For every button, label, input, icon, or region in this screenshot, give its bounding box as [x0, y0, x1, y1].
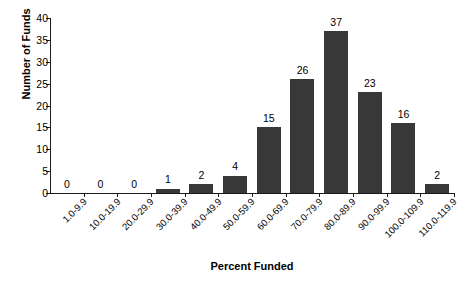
bar: [324, 31, 348, 193]
bar-series: 00012415263723162: [50, 18, 454, 193]
bar-group: 2: [420, 18, 454, 193]
bar-group: 23: [353, 18, 387, 193]
y-axis-tick-label: 0: [24, 188, 48, 199]
y-axis-tick-label: 10: [24, 144, 48, 155]
bar-group: 0: [117, 18, 151, 193]
bar-group: 2: [185, 18, 219, 193]
bar-value-label: 2: [199, 170, 205, 181]
y-axis-tick-label: 40: [24, 13, 48, 24]
bar-value-label: 0: [64, 179, 70, 190]
bar: [290, 79, 314, 193]
bar: [425, 184, 449, 193]
bar-value-label: 2: [434, 170, 440, 181]
y-axis-tick-label: 25: [24, 79, 48, 90]
y-axis-tick-label: 5: [24, 166, 48, 177]
x-axis-category-labels: 1.0-9.910.0-19.920.0-29.930.0-39.940.0-4…: [50, 196, 454, 254]
bar-chart: Number of Funds 00012415263723162 051015…: [0, 0, 469, 282]
y-axis-tick-label: 30: [24, 57, 48, 68]
y-axis-tick-label: 15: [24, 122, 48, 133]
bar-group: 16: [387, 18, 421, 193]
bar-value-label: 0: [98, 179, 104, 190]
bar-value-label: 26: [297, 65, 309, 76]
bar: [156, 189, 180, 193]
bar-group: 37: [319, 18, 353, 193]
bar-group: 0: [50, 18, 84, 193]
bar-group: 0: [84, 18, 118, 193]
bar-value-label: 1: [165, 174, 171, 185]
x-axis-title: Percent Funded: [50, 260, 454, 272]
bar-group: 26: [286, 18, 320, 193]
bar: [223, 176, 247, 194]
bar: [358, 92, 382, 193]
bar-value-label: 0: [131, 179, 137, 190]
bar-group: 1: [151, 18, 185, 193]
bar-value-label: 23: [364, 78, 376, 89]
plot-area: 00012415263723162 0510152025303540: [50, 18, 454, 193]
bar: [257, 127, 281, 193]
bar: [391, 123, 415, 193]
y-axis-tick-label: 35: [24, 35, 48, 46]
bar: [189, 184, 213, 193]
bar-value-label: 4: [232, 161, 238, 172]
bar-group: 4: [218, 18, 252, 193]
bar-group: 15: [252, 18, 286, 193]
x-axis-tick: [454, 193, 455, 197]
bar-value-label: 15: [263, 113, 275, 124]
bar-value-label: 16: [398, 109, 410, 120]
bar-value-label: 37: [330, 17, 342, 28]
y-axis-tick-label: 20: [24, 101, 48, 112]
